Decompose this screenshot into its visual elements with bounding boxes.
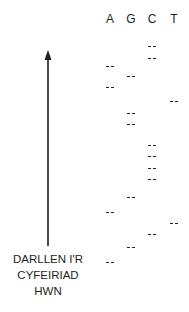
caption-line-3: HWN — [0, 283, 96, 299]
caption-line-2: CYFEIRIAD — [0, 267, 96, 283]
caption-line-1: DARLLEN I'R — [0, 251, 96, 267]
read-direction-caption: DARLLEN I'R CYFEIRIAD HWN — [0, 251, 96, 299]
